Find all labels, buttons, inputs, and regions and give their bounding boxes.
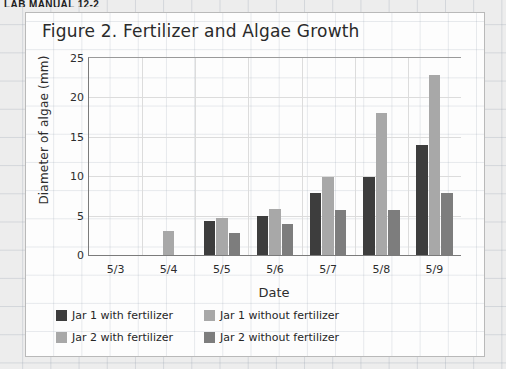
gridline-vertical: [195, 58, 196, 255]
y-axis-tick: 0: [77, 249, 84, 262]
bar: [216, 218, 228, 255]
x-axis-tick: 5/9: [426, 263, 444, 276]
gridline-vertical: [408, 58, 409, 255]
x-axis-label: Date: [88, 285, 460, 300]
x-axis-tick: 5/6: [266, 263, 284, 276]
x-axis-tick: 5/4: [160, 263, 178, 276]
bar: [441, 193, 453, 255]
bar: [322, 177, 334, 255]
bar: [388, 210, 400, 255]
page-header: LAB MANUAL 12-2: [0, 0, 506, 7]
y-axis-tick: 10: [70, 170, 84, 183]
gridline-horizontal: [89, 97, 461, 98]
y-axis-tick: 25: [70, 52, 84, 65]
legend-item: Jar 1 without fertilizer: [204, 309, 356, 322]
gridline-vertical: [355, 58, 356, 255]
legend-item: Jar 2 without fertilizer: [204, 331, 356, 344]
legend-swatch: [204, 332, 215, 343]
figure-panel: Figure 2. Fertilizer and Algae Growth Di…: [25, 12, 485, 357]
bar: [429, 75, 441, 255]
gridline-vertical: [302, 58, 303, 255]
bar: [376, 113, 388, 255]
gridline-vertical: [248, 58, 249, 255]
x-axis-tick: 5/7: [319, 263, 337, 276]
gridline-horizontal: [89, 176, 461, 177]
gridline-horizontal: [89, 137, 461, 138]
legend-label: Jar 1 without fertilizer: [220, 309, 339, 322]
legend-label: Jar 1 with fertilizer: [72, 309, 173, 322]
legend-label: Jar 2 with fertilizer: [72, 331, 173, 344]
bar: [204, 221, 216, 255]
x-axis-tick: 5/3: [107, 263, 125, 276]
bar: [310, 193, 322, 255]
bar: [416, 145, 428, 255]
bar: [363, 177, 375, 255]
y-axis-tick: 5: [77, 209, 84, 222]
x-axis-tick: 5/5: [213, 263, 231, 276]
legend-swatch: [204, 310, 215, 321]
bar: [229, 233, 241, 255]
plot-canvas: 05101520255/35/45/55/65/75/85/9: [88, 57, 461, 256]
bar: [163, 231, 175, 255]
gridline-vertical: [142, 58, 143, 255]
legend-item: Jar 2 with fertilizer: [56, 331, 204, 344]
bar: [335, 210, 347, 255]
x-axis-tick: 5/8: [372, 263, 390, 276]
bar: [257, 216, 269, 255]
y-axis-tick: 15: [70, 130, 84, 143]
legend-item: Jar 1 with fertilizer: [56, 309, 204, 322]
y-axis-label: Diameter of algae (mm): [37, 50, 51, 210]
bar: [282, 224, 294, 255]
chart-legend: Jar 1 with fertilizerJar 1 without ferti…: [56, 309, 356, 344]
legend-label: Jar 2 without fertilizer: [220, 331, 339, 344]
bar: [269, 209, 281, 255]
y-axis-tick: 20: [70, 91, 84, 104]
chart-plot-area: Diameter of algae (mm) 05101520255/35/45…: [26, 13, 486, 358]
legend-swatch: [56, 310, 67, 321]
legend-swatch: [56, 332, 67, 343]
